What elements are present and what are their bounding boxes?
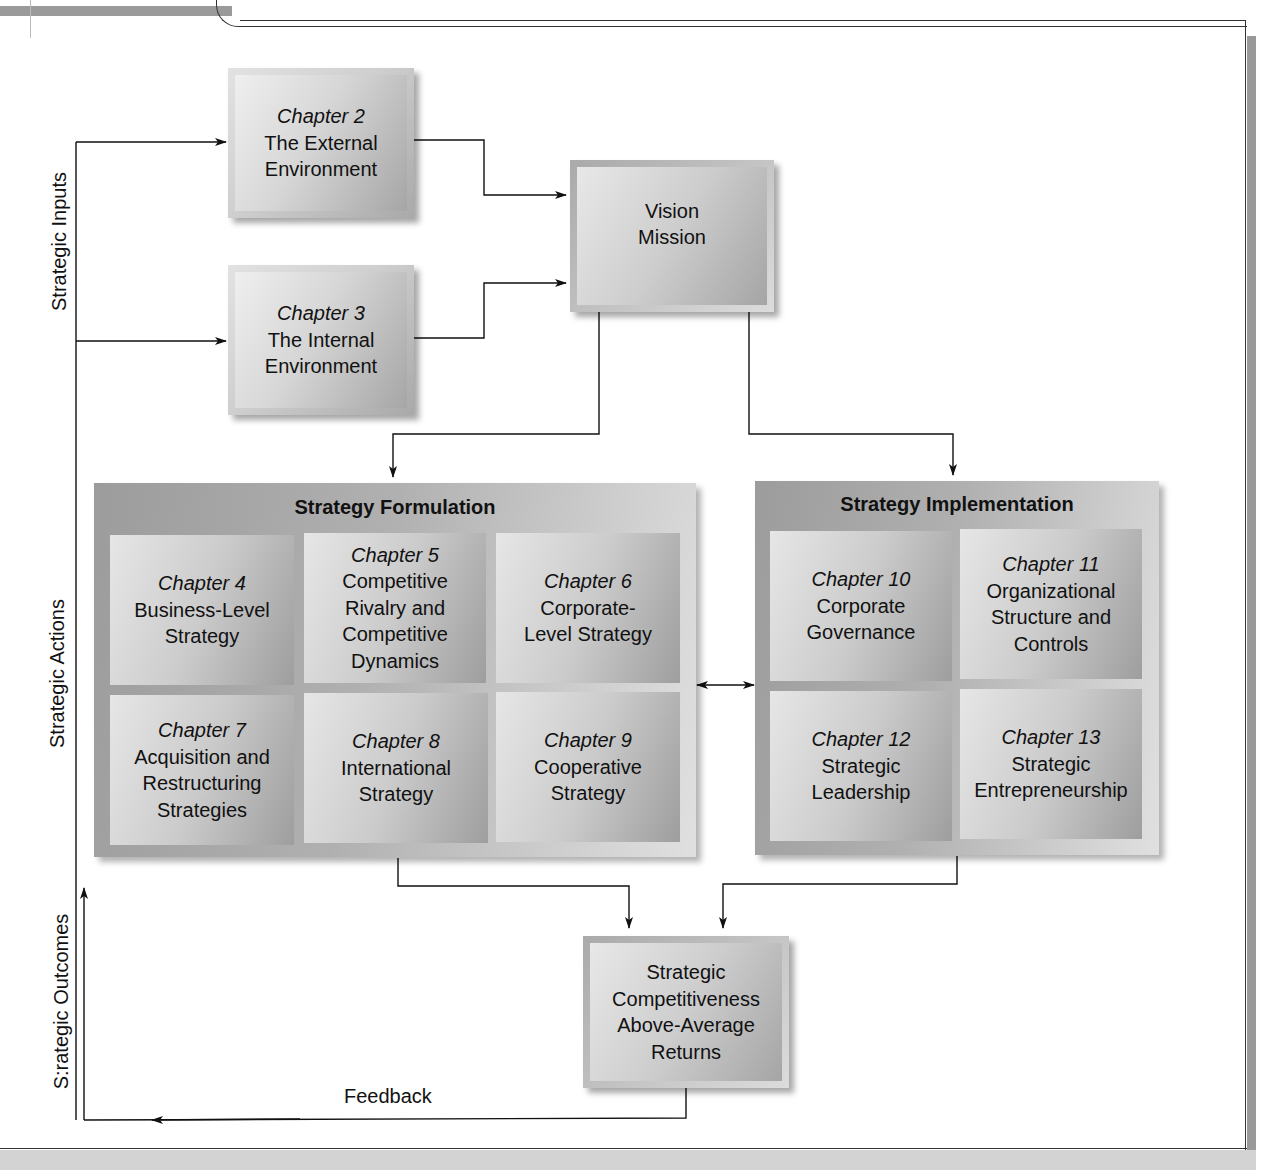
mission-line: Mission	[638, 224, 706, 251]
cell-chapter-10: Chapter 10 Corporate Governance	[770, 531, 952, 681]
box-title-line: The Internal	[268, 327, 375, 354]
cell-line: Level Strategy	[524, 621, 652, 648]
cell-chapter-7: Chapter 7 Acquisition and Restructuring …	[110, 695, 294, 845]
chapter-label: Chapter 7	[158, 717, 246, 744]
outcome-line: Returns	[651, 1039, 721, 1066]
vision-line: Vision	[645, 198, 699, 225]
cell-line: International	[341, 755, 451, 782]
cell-line: Competitive	[342, 568, 448, 595]
cell-chapter-6: Chapter 6 Corporate- Level Strategy	[496, 533, 680, 683]
cell-line: Controls	[1014, 631, 1088, 658]
box-vision-mission: Vision Mission	[570, 160, 774, 312]
cell-line: Governance	[807, 619, 916, 646]
cell-chapter-11: Chapter 11 Organizational Structure and …	[960, 529, 1142, 679]
cell-line: Acquisition and	[134, 744, 270, 771]
side-label-strategic-outcomes: S:rategic Outcomes	[50, 897, 73, 1107]
cell-line: Restructuring	[143, 770, 262, 797]
cell-line: Strategy	[551, 780, 625, 807]
cell-line: Cooperative	[534, 754, 642, 781]
chapter-label: Chapter 8	[352, 728, 440, 755]
cell-line: Corporate	[817, 593, 906, 620]
box-chapter-3-internal-environment: Chapter 3 The Internal Environment	[228, 265, 414, 415]
outcome-line: Strategic	[647, 959, 726, 986]
chapter-label: Chapter 11	[1002, 551, 1099, 578]
cell-line: Strategies	[157, 797, 247, 824]
group-strategy-formulation: Strategy Formulation Chapter 4 Business-…	[94, 483, 696, 857]
cell-line: Entrepreneurship	[974, 777, 1127, 804]
chapter-label: Chapter 9	[544, 727, 632, 754]
chapter-label: Chapter 10	[812, 566, 911, 593]
cell-chapter-12: Chapter 12 Strategic Leadership	[770, 691, 952, 841]
chapter-label: Chapter 2	[277, 103, 365, 130]
cell-line: Strategic	[822, 753, 901, 780]
cell-line: Organizational	[987, 578, 1116, 605]
cell-line: Competitive	[342, 621, 448, 648]
chapter-label: Chapter 6	[544, 568, 632, 595]
side-label-strategic-inputs: Strategic Inputs	[48, 147, 71, 337]
chapter-label: Chapter 3	[277, 300, 365, 327]
group-title-implementation: Strategy Implementation	[755, 493, 1159, 516]
cell-line: Structure and	[991, 604, 1111, 631]
cell-line: Corporate-	[540, 595, 636, 622]
cell-line: Rivalry and	[345, 595, 445, 622]
cell-line: Business-Level	[134, 597, 270, 624]
side-label-strategic-actions: Strategic Actions	[46, 579, 69, 769]
feedback-label: Feedback	[344, 1085, 432, 1108]
box-title-line: Environment	[265, 156, 377, 183]
cell-line: Strategy	[359, 781, 433, 808]
group-title-formulation: Strategy Formulation	[94, 496, 696, 519]
chapter-label: Chapter 4	[158, 570, 246, 597]
cell-chapter-5: Chapter 5 Competitive Rivalry and Compet…	[304, 533, 486, 683]
chapter-label: Chapter 5	[351, 542, 439, 569]
chapter-label: Chapter 13	[1002, 724, 1101, 751]
cell-chapter-4: Chapter 4 Business-Level Strategy	[110, 535, 294, 685]
cell-line: Strategic	[1012, 751, 1091, 778]
box-title-line: Environment	[265, 353, 377, 380]
cell-line: Leadership	[812, 779, 911, 806]
group-strategy-implementation: Strategy Implementation Chapter 10 Corpo…	[755, 481, 1159, 855]
cell-chapter-8: Chapter 8 International Strategy	[304, 693, 488, 843]
cell-line: Strategy	[165, 623, 239, 650]
outcome-line: Above-Average	[617, 1012, 755, 1039]
cell-chapter-13: Chapter 13 Strategic Entrepreneurship	[960, 689, 1142, 839]
outcome-line: Competitiveness	[612, 986, 760, 1013]
box-title-line: The External	[264, 130, 377, 157]
cell-chapter-9: Chapter 9 Cooperative Strategy	[496, 692, 680, 842]
cell-line: Dynamics	[351, 648, 439, 675]
box-strategic-competitiveness: Strategic Competitiveness Above-Average …	[583, 936, 789, 1088]
box-chapter-2-external-environment: Chapter 2 The External Environment	[228, 68, 414, 218]
chapter-label: Chapter 12	[812, 726, 911, 753]
